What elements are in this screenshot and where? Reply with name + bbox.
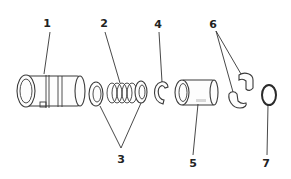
leader-3a: [100, 106, 121, 148]
part-1-housing: [17, 75, 85, 108]
leader-6a: [216, 31, 241, 74]
callout-5: 5: [189, 157, 197, 170]
part-4-clip: [154, 82, 168, 104]
exploded-parts-diagram: 1 2 3 4 5 6 7: [0, 0, 291, 179]
leader-6b: [216, 31, 233, 92]
callout-3: 3: [117, 153, 125, 166]
leader-7: [267, 105, 268, 155]
callout-6: 6: [209, 18, 217, 31]
part-5-bushing: [175, 80, 218, 105]
callout-7: 7: [262, 157, 270, 170]
callout-1: 1: [43, 17, 51, 30]
leader-1: [44, 32, 50, 74]
part-3-washer-right: [135, 81, 147, 103]
callout-2: 2: [100, 17, 108, 30]
part-6-collet-lower: [229, 92, 246, 108]
part-7-o-ring: [262, 85, 276, 105]
leader-5: [193, 104, 198, 155]
part-3-washer-left: [89, 82, 103, 106]
part-2-spring: [107, 83, 137, 103]
part-6-collet-upper: [239, 73, 253, 90]
leader-4: [159, 32, 162, 82]
callout-4: 4: [154, 18, 162, 31]
leader-2: [105, 32, 120, 83]
leader-3b: [121, 103, 141, 148]
